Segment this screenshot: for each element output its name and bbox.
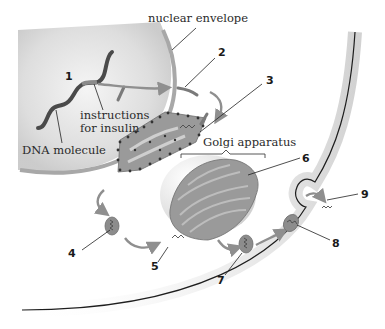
- step-1: 1: [65, 70, 73, 83]
- arrow-er-to-vesicle: [98, 190, 104, 212]
- step-9: 9: [361, 188, 369, 201]
- golgi-vesicle-cargo: [172, 235, 184, 238]
- step-5: 5: [151, 260, 159, 273]
- insulin-pathway-diagram: nuclear envelope instructions for insuli…: [0, 0, 385, 329]
- step-2: 2: [218, 46, 226, 59]
- arrow-exocytosis: [306, 194, 322, 198]
- label-instructions-1: instructions: [80, 108, 150, 122]
- leader-2: [185, 58, 215, 87]
- leader-6: [248, 158, 300, 175]
- released-insulin: [322, 206, 332, 208]
- golgi-brace: [181, 150, 265, 158]
- label-instructions-2: for insulin: [80, 121, 140, 135]
- step-7: 7: [217, 274, 225, 287]
- step-8: 8: [332, 237, 340, 250]
- mrna-cytoplasm: [178, 88, 197, 95]
- label-nuclear-envelope: nuclear envelope: [148, 11, 248, 25]
- label-dna-molecule: DNA molecule: [22, 143, 106, 157]
- golgi-apparatus: [160, 155, 258, 240]
- leader-4: [82, 230, 110, 250]
- step-6: 6: [302, 152, 310, 165]
- insulin-gene-segment: [82, 82, 97, 84]
- arrow-vesicle-to-golgi: [125, 238, 155, 248]
- leader-5: [158, 247, 168, 262]
- arrow-mrna-to-er: [210, 92, 221, 118]
- leader-9: [327, 194, 358, 200]
- leader-8: [297, 225, 330, 240]
- step-4: 4: [68, 247, 76, 260]
- leader-3: [200, 84, 262, 132]
- secretory-vesicle: [239, 235, 253, 253]
- step-3: 3: [266, 74, 274, 87]
- leader-nuclear-envelope: [172, 28, 196, 50]
- label-golgi-apparatus: Golgi apparatus: [203, 135, 296, 149]
- arrow-golgi-to-vesicle: [218, 240, 236, 249]
